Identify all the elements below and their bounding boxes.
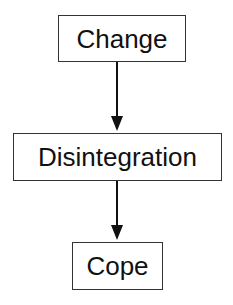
arrow-change-to-disintegration [111,62,123,131]
node-label: Disintegration [38,144,197,170]
arrow-disintegration-to-cope [111,181,123,240]
node-disintegration: Disintegration [13,133,222,181]
node-label: Change [76,26,167,52]
node-cope: Cope [72,242,163,290]
node-change: Change [58,15,186,62]
node-label: Cope [86,253,148,279]
